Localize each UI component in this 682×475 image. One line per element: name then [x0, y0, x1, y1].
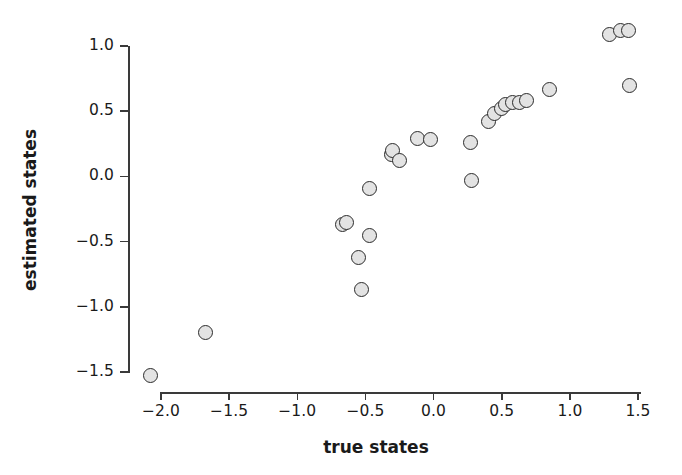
data-point	[354, 282, 369, 297]
y-axis-tick	[120, 241, 128, 243]
data-point	[392, 153, 407, 168]
y-axis-tick	[120, 45, 128, 47]
data-point	[351, 250, 366, 265]
x-axis-tick	[637, 392, 639, 400]
scatter-plot-figure: 1.00.50.0−0.5−1.0−1.5 −2.0−1.5−1.0−0.50.…	[0, 0, 682, 475]
y-tick-labels: 1.00.50.0−0.5−1.0−1.5	[62, 0, 114, 475]
data-point	[362, 228, 377, 243]
y-tick-label: 0.0	[89, 166, 114, 184]
data-point	[464, 173, 479, 188]
x-axis-tick	[228, 392, 230, 400]
x-axis-title: true states	[0, 437, 682, 457]
y-axis-tick	[120, 176, 128, 178]
data-point	[339, 215, 354, 230]
x-axis-tick	[569, 392, 571, 400]
data-point	[542, 82, 557, 97]
data-point	[622, 78, 637, 93]
y-tick-label: −0.5	[76, 232, 114, 250]
y-tick-label: −1.5	[76, 362, 114, 380]
x-axis-tick	[501, 392, 503, 400]
x-tick-label: −1.0	[278, 402, 316, 420]
x-tick-label: −0.5	[346, 402, 384, 420]
data-point	[621, 23, 636, 38]
y-axis-title: estimated states	[20, 110, 40, 310]
y-tick-label: −1.0	[76, 297, 114, 315]
y-axis-tick	[120, 371, 128, 373]
y-axis-tick	[120, 110, 128, 112]
y-axis-tick	[120, 306, 128, 308]
data-point	[423, 132, 438, 147]
x-axis-tick	[297, 392, 299, 400]
x-tick-label: −1.5	[210, 402, 248, 420]
x-tick-label: −2.0	[142, 402, 180, 420]
x-tick-label: 1.5	[626, 402, 651, 420]
y-axis-line	[128, 46, 130, 373]
x-tick-label: 0.5	[489, 402, 514, 420]
y-tick-label: 1.0	[89, 36, 114, 54]
data-point	[463, 135, 478, 150]
x-axis-tick	[433, 392, 435, 400]
data-point	[198, 325, 213, 340]
x-axis-tick	[160, 392, 162, 400]
data-point	[362, 181, 377, 196]
x-tick-label: 0.0	[421, 402, 446, 420]
x-axis-title-text: true states	[323, 437, 429, 457]
x-axis-tick	[365, 392, 367, 400]
x-tick-label: 1.0	[557, 402, 582, 420]
y-tick-label: 0.5	[89, 101, 114, 119]
data-point	[519, 93, 534, 108]
data-point	[143, 368, 158, 383]
